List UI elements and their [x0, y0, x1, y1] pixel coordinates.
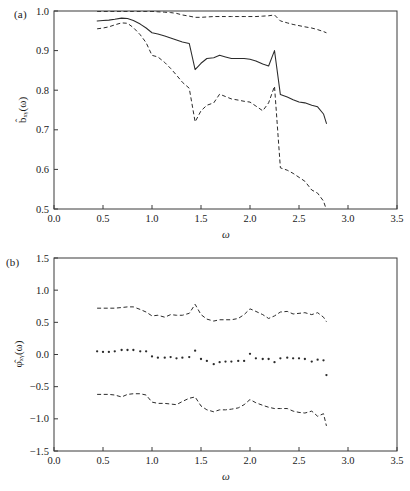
data-point — [249, 353, 251, 355]
data-point — [279, 357, 281, 359]
y-tick-label: 1.0 — [36, 6, 49, 17]
x-tick-label: 2.0 — [243, 213, 256, 224]
series-solid — [97, 18, 326, 123]
series-dashed — [97, 11, 326, 32]
data-point — [218, 361, 220, 363]
data-point — [298, 357, 300, 359]
series-dashed — [97, 304, 326, 321]
data-point — [316, 358, 318, 360]
data-point — [194, 349, 196, 351]
panel-a-tag: (a) — [14, 8, 27, 20]
data-point — [181, 357, 183, 359]
y-tick-label: 1.5 — [36, 253, 49, 264]
data-point — [96, 350, 98, 352]
data-point — [120, 349, 122, 351]
data-point — [132, 349, 134, 351]
series-dashed — [97, 394, 326, 426]
y-tick-label: 0.7 — [36, 124, 49, 135]
data-point — [126, 349, 128, 351]
data-point — [188, 356, 190, 358]
data-point — [139, 350, 141, 352]
y-tick-label: −1.5 — [30, 446, 49, 457]
data-point — [255, 357, 257, 359]
series-group — [96, 304, 328, 426]
data-point — [230, 360, 232, 362]
data-point — [169, 356, 171, 358]
data-point — [267, 358, 269, 360]
data-point — [200, 358, 202, 360]
data-point — [325, 374, 327, 376]
x-tick-label: 0.0 — [47, 213, 60, 224]
y-tick-label: 0.6 — [36, 164, 49, 175]
y-tick-label: −1.0 — [30, 413, 49, 424]
x-tick-label: 3.5 — [390, 213, 403, 224]
figure-container: (a) b̂ₓᵧ(ω) ω 0.00.51.01.52.02.53.03.50.… — [0, 0, 410, 491]
data-point — [206, 360, 208, 362]
panel-a-y-axis-label: b̂ₓᵧ(ω) — [16, 80, 28, 140]
data-point — [273, 361, 275, 363]
series-group — [97, 11, 326, 209]
panel-b-y-axis-label: φ̂ₓᵧ(ω) — [12, 324, 24, 384]
data-point — [102, 351, 104, 353]
x-tick-label: 3.5 — [390, 455, 403, 466]
y-tick-label: 1.0 — [36, 285, 49, 296]
data-point — [157, 357, 159, 359]
x-tick-label: 1.5 — [194, 213, 207, 224]
y-tick-label: 0.9 — [36, 45, 49, 56]
y-tick-label: 0.0 — [36, 349, 49, 360]
x-tick-label: 2.5 — [292, 455, 305, 466]
data-point — [311, 360, 313, 362]
data-point — [237, 360, 239, 362]
series-dashed — [97, 23, 326, 210]
panel-a-plot: 0.00.51.01.52.02.53.03.50.50.60.70.80.91… — [0, 0, 410, 248]
x-tick-label: 1.0 — [145, 213, 158, 224]
panel-b-tag: (b) — [6, 256, 19, 268]
plot-frame — [54, 11, 397, 209]
x-tick-label: 1.0 — [145, 455, 158, 466]
plot-frame — [54, 258, 397, 451]
x-tick-label: 1.5 — [194, 455, 207, 466]
y-tick-label: 0.8 — [36, 85, 49, 96]
x-tick-label: 2.5 — [292, 213, 305, 224]
panel-a: (a) b̂ₓᵧ(ω) ω 0.00.51.01.52.02.53.03.50.… — [0, 0, 410, 248]
x-tick-label: 0.5 — [96, 213, 109, 224]
data-point — [108, 351, 110, 353]
x-tick-label: 0.5 — [96, 455, 109, 466]
data-point — [262, 358, 264, 360]
y-tick-label: 0.5 — [36, 204, 49, 215]
y-tick-label: 0.5 — [36, 317, 49, 328]
data-point — [322, 359, 324, 361]
data-point — [213, 363, 215, 365]
data-point — [114, 350, 116, 352]
data-point — [175, 357, 177, 359]
x-tick-label: 3.0 — [341, 213, 354, 224]
data-point — [304, 358, 306, 360]
panel-b-x-axis-label: ω — [206, 470, 246, 482]
data-point — [286, 357, 288, 359]
panel-a-x-axis-label: ω — [206, 228, 246, 240]
x-tick-label: 0.0 — [47, 455, 60, 466]
data-point — [243, 360, 245, 362]
data-point — [292, 357, 294, 359]
x-tick-label: 2.0 — [243, 455, 256, 466]
data-point — [164, 357, 166, 359]
x-tick-label: 3.0 — [341, 455, 354, 466]
panel-b: (b) φ̂ₓᵧ(ω) ω 0.00.51.01.52.02.53.03.5−1… — [0, 248, 410, 491]
data-point — [151, 355, 153, 357]
data-point — [224, 360, 226, 362]
panel-b-plot: 0.00.51.01.52.02.53.03.5−1.5−1.0−0.50.00… — [0, 248, 410, 491]
data-point — [145, 350, 147, 352]
y-tick-label: −0.5 — [30, 381, 49, 392]
